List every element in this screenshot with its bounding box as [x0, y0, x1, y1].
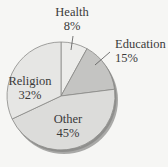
slice-percent-religion: 32%	[19, 88, 42, 102]
slice-percent-health: 8%	[64, 19, 81, 33]
slice-percent-other: 45%	[57, 126, 80, 140]
slice-percent-education: 15%	[115, 51, 138, 65]
slice-label-other: Other	[54, 112, 83, 126]
slice-label-education: Education	[115, 37, 166, 51]
slice-label-health: Health	[55, 5, 89, 19]
slice-label-religion: Religion	[8, 74, 52, 88]
pie-chart: Health8%Education15%Other45%Religion32%	[0, 0, 168, 167]
